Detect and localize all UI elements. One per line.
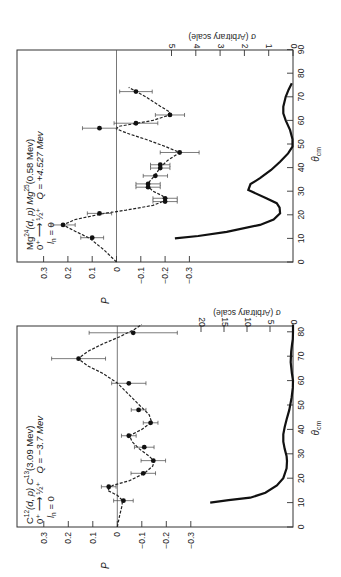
reaction-annotation: Mg24(d, p) Mg25(0.58 Mev)0⁺ ⟶ ½⁺Q = +4.5… [23,130,57,250]
data-point [160,150,199,155]
p-tick-label: −0.1 [137,532,147,549]
p-tick-label: 0.2 [63,532,73,544]
theta-tick-label: 50 [296,139,306,149]
theta-tick-label: 20 [296,210,306,220]
sigma-tick-label: 0 [289,320,299,325]
sigma-tick-label: 5 [266,320,276,325]
data-point [114,121,158,126]
theta-axis-label: θcm [310,420,322,435]
theta-tick-label: 60 [296,376,306,386]
sigma-axis-label: σ (Arbitrary scale) [188,32,256,42]
p-tick-label: −0.3 [184,267,194,284]
data-point [112,381,146,386]
theta-tick-label: 50 [296,400,306,410]
sigma-tick-label: 5 [167,44,177,49]
theta-tick-label: 80 [296,68,306,78]
theta-tick-label: 10 [296,233,306,243]
sigma-tick-label: 1 [264,44,274,49]
data-point [151,162,170,167]
p-tick-label: −0.1 [136,267,146,284]
theta-tick-label: 70 [296,351,306,361]
sigma-tick-label: 2 [240,44,250,49]
p-axis-label: P [100,562,111,569]
theta-tick-label: 40 [296,424,306,434]
data-point [134,445,154,450]
theta-tick-label: 70 [296,92,306,102]
data-point [89,330,177,335]
sigma-tick-label: 3 [216,44,226,49]
theta-tick-label: 0 [296,259,306,264]
theta-tick-label: 60 [296,115,306,125]
chart-c12-dp: 0.30.20.10−0.1−0.2−0.3P01020304050607080… [17,308,322,569]
data-point [52,356,106,361]
p-tick-label: −0.2 [160,267,170,284]
p-tick-label: −0.3 [186,532,196,549]
theta-tick-label: 80 [296,327,306,337]
cross-section-curve [175,83,293,238]
polarization-fit-curve [78,325,154,528]
p-tick-label: −0.2 [161,532,171,549]
p-tick-label: 0.1 [87,267,97,279]
ln-label: ln = 0 [45,496,57,518]
data-point [101,484,116,489]
p-axis-label: P [100,297,111,304]
ln-label: ln = 0 [45,222,57,244]
theta-tick-label: 10 [296,498,306,508]
p-tick-label: 0 [112,267,122,272]
data-point [131,407,146,412]
sigma-tick-label: 0 [289,44,299,49]
chart-mg24-dp: 0.30.20.10−0.1−0.2−0.3P01020304050607080… [17,32,322,304]
sigma-tick-label: 4 [192,44,202,49]
p-tick-label: 0.2 [63,267,73,279]
data-point [114,498,134,503]
data-point [143,173,167,178]
theta-tick-label: 30 [296,186,306,196]
sigma-tick-label: 20 [197,317,207,327]
sigma-axis-label: σ (Arbitrary scale) [213,308,281,318]
p-tick-label: 0.1 [88,532,98,544]
theta-axis-label: θcm [310,147,322,162]
theta-tick-label: 0 [296,524,306,529]
p-tick-label: 0.3 [39,532,49,544]
data-point [155,113,184,118]
figure: 0.30.20.10−0.1−0.2−0.3P01020304050607080… [0,0,341,577]
transition-label: 0⁺ ⟶ ½⁺Q = +4.527 Mev [34,130,45,250]
theta-tick-label: 40 [296,163,306,173]
data-point [120,89,153,94]
data-point [131,471,156,476]
p-tick-label: 0 [112,532,122,537]
transition-label: 0⁺ ⟶ ½⁺Q = −3.7 Mev [34,415,45,524]
plot-frame [17,50,293,262]
reaction-annotation: C12(d, p) C13(3.09 Mev)0⁺ ⟶ ½⁺Q = −3.7 M… [23,415,57,524]
data-point [141,458,166,463]
p-tick-label: 0.3 [39,267,49,279]
data-point [136,181,160,186]
theta-tick-label: 30 [296,449,306,459]
data-point [82,126,116,131]
theta-tick-label: 20 [296,473,306,483]
cross-section-curve [210,325,293,503]
data-point [87,211,111,216]
data-point [143,420,158,425]
data-point [153,196,177,201]
